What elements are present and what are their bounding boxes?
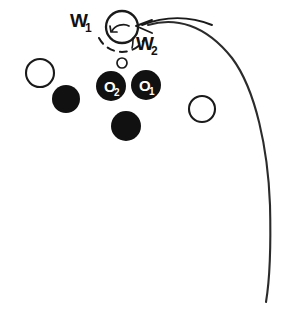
diagram-svg: O 2 O 1 W 1 W 2 [0,0,303,318]
o1-label-sub: 1 [149,86,155,97]
w2-label-sub: 2 [151,44,158,58]
w1-label-sub: 1 [85,21,92,35]
o2-label-sub: 2 [114,87,120,98]
figure-canvas: O 2 O 1 W 1 W 2 [0,0,303,318]
filled-circle-bottom [111,111,141,141]
filled-circle-left [52,85,80,113]
